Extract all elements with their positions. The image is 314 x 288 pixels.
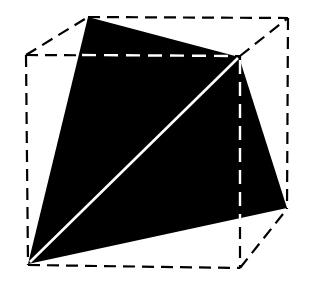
cube-edge-back-top xyxy=(88,17,288,18)
cube-edge-back-right xyxy=(287,18,288,209)
cube-edge-front-bottom xyxy=(28,265,240,268)
cube-edge-top-right-diag xyxy=(240,18,288,56)
cube-edge-top-left-diag xyxy=(26,17,88,55)
cube-edge-front-left xyxy=(26,55,28,265)
cube-edge-bottom-right-diag xyxy=(240,209,287,268)
cube-tetrahedron-diagram xyxy=(0,0,314,288)
